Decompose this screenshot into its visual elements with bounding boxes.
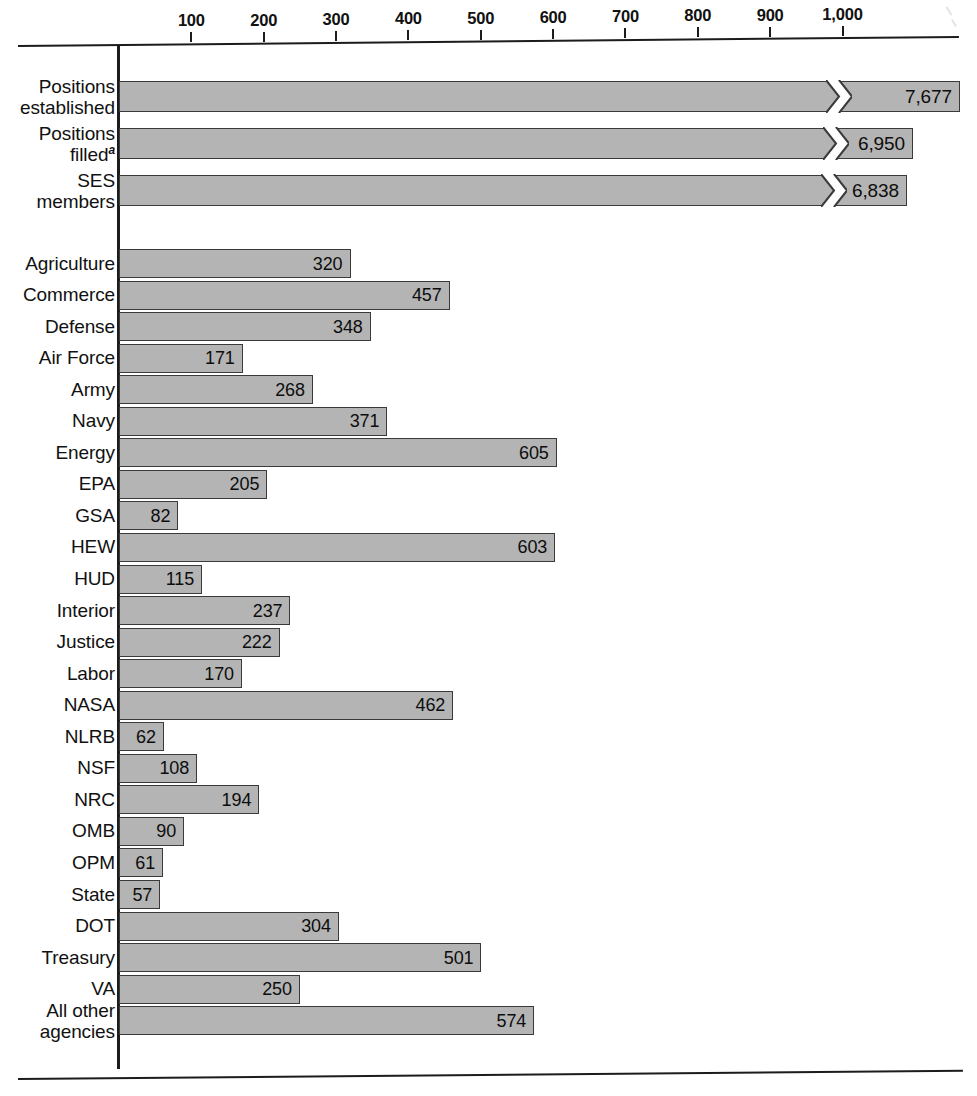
agency-row-label-line1: All other xyxy=(40,1000,115,1021)
agency-row: Justice222 xyxy=(0,628,977,657)
bar-value-label: 205 xyxy=(230,474,260,495)
agency-row-label: OPM xyxy=(72,852,115,873)
agency-row: NSF108 xyxy=(0,754,977,783)
agency-row: NASA462 xyxy=(0,691,977,720)
bar-value-label: 115 xyxy=(166,569,194,590)
agency-row: Labor170 xyxy=(0,659,977,688)
bar: 115 xyxy=(119,565,202,594)
axis-break-icon xyxy=(821,174,847,207)
agency-row-label-line2: agencies xyxy=(40,1021,115,1042)
agency-row-label: Air Force xyxy=(39,347,115,368)
bar-value-label: 61 xyxy=(135,852,155,873)
bar: 501 xyxy=(119,943,481,972)
agency-row-label: Justice xyxy=(57,631,115,652)
agency-row: NLRB62 xyxy=(0,722,977,751)
bar-value-label: 57 xyxy=(132,884,152,905)
bar: 320 xyxy=(119,249,351,278)
agency-row-label: NASA xyxy=(64,694,115,715)
summary-row: Positionsestablished7,677 xyxy=(0,81,977,112)
agency-row-label: EPA xyxy=(79,473,115,494)
x-axis-tick xyxy=(335,31,337,41)
agency-row: OPM61 xyxy=(0,848,977,877)
agency-row: Treasury501 xyxy=(0,943,977,972)
footnote-marker: a xyxy=(108,142,115,156)
agency-row-label: Interior xyxy=(57,600,115,621)
x-axis-tick xyxy=(552,29,554,39)
bar-value-label: 268 xyxy=(275,379,305,400)
bar: 574 xyxy=(119,1006,534,1035)
summary-row-label-line2: filleda xyxy=(39,144,115,165)
agency-row-label: GSA xyxy=(75,505,115,526)
bar-value-label: 237 xyxy=(253,600,283,621)
bar-value-label: 194 xyxy=(222,789,252,810)
bar-value-label: 222 xyxy=(242,632,272,653)
agency-row: Energy605 xyxy=(0,438,977,467)
agency-row: Air Force171 xyxy=(0,344,977,373)
bar-value-label: 462 xyxy=(416,695,446,716)
agency-row-label: NSF xyxy=(77,757,115,778)
agency-row: DOT304 xyxy=(0,912,977,941)
bar-value-label: 6,838 xyxy=(852,180,899,202)
agency-row: Navy371 xyxy=(0,407,977,436)
bar-value-label: 90 xyxy=(156,821,176,842)
summary-row-label-line1: SES xyxy=(37,170,115,191)
agency-row-label: Commerce xyxy=(23,284,115,305)
bar: 7,677 xyxy=(119,81,960,112)
x-axis-tick-label: 900 xyxy=(757,6,784,25)
agency-row: VA250 xyxy=(0,975,977,1004)
bar: 6,838 xyxy=(119,175,907,206)
bar-value-label: 605 xyxy=(519,442,549,463)
x-axis-tick xyxy=(480,30,482,40)
bar: 6,950 xyxy=(119,128,913,159)
agency-row: Defense348 xyxy=(0,312,977,341)
bar-chart: 1002003004005006007008009001,000 Positio… xyxy=(0,0,977,1096)
agency-row-label: Army xyxy=(71,379,115,400)
x-axis-tick-label: 200 xyxy=(250,11,277,30)
agency-row: HUD115 xyxy=(0,565,977,594)
bar: 222 xyxy=(119,628,280,657)
agency-row: Army268 xyxy=(0,375,977,404)
bar-value-label: 501 xyxy=(444,947,474,968)
x-axis-tick xyxy=(624,28,626,38)
x-axis-tick xyxy=(407,30,409,40)
bar: 61 xyxy=(119,848,163,877)
bar: 108 xyxy=(119,754,197,783)
x-axis-line xyxy=(18,36,959,47)
agency-row: Agriculture320 xyxy=(0,249,977,278)
bar-value-label: 7,677 xyxy=(905,86,952,108)
bar-value-label: 82 xyxy=(150,505,170,526)
bar: 171 xyxy=(119,344,243,373)
agency-row: Commerce457 xyxy=(0,281,977,310)
agency-row: All otheragencies574 xyxy=(0,1006,977,1035)
x-axis-tick-label: 500 xyxy=(467,9,494,28)
bar: 371 xyxy=(119,407,387,436)
x-axis-tick xyxy=(769,27,771,37)
agency-row-label: Navy xyxy=(72,410,115,431)
x-axis-tick xyxy=(190,32,192,42)
bar: 462 xyxy=(119,691,453,720)
x-axis-tick-label: 1,000 xyxy=(822,5,862,24)
x-axis-tick-label: 100 xyxy=(178,11,205,30)
bar: 90 xyxy=(119,817,184,846)
summary-row: Positionsfilleda6,950 xyxy=(0,128,977,159)
summary-row: SESmembers6,838 xyxy=(0,175,977,206)
agency-row-label: HUD xyxy=(74,568,115,589)
agency-row-label: State xyxy=(71,884,115,905)
bar: 348 xyxy=(119,312,371,341)
x-axis-tick-label: 800 xyxy=(684,6,711,25)
bar-value-label: 348 xyxy=(333,316,363,337)
bar: 237 xyxy=(119,596,290,625)
agency-row-label: Treasury xyxy=(42,947,115,968)
summary-row-label: SESmembers xyxy=(37,170,115,212)
agency-row-label: Energy xyxy=(55,442,115,463)
bar-value-label: 371 xyxy=(350,411,380,432)
bar-value-label: 6,950 xyxy=(858,133,905,155)
bar-value-label: 304 xyxy=(301,916,331,937)
summary-row-label-line2: members xyxy=(37,191,115,212)
bar-value-label: 108 xyxy=(159,758,189,779)
bar-value-label: 457 xyxy=(412,285,442,306)
x-axis-tick xyxy=(842,26,844,36)
bar: 62 xyxy=(119,722,164,751)
bar: 268 xyxy=(119,375,313,404)
bar-value-label: 171 xyxy=(205,348,235,369)
